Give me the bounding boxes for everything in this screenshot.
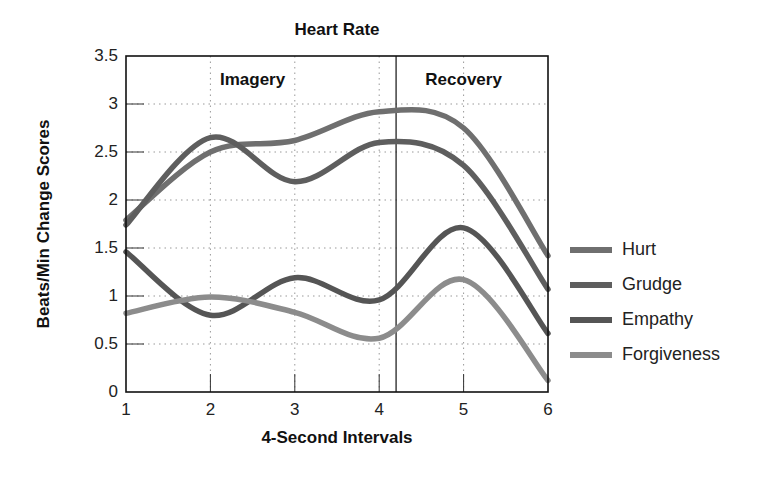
y-tick-label: 2.5 [94,142,118,162]
legend-swatch-empathy [570,317,612,323]
y-tick-label: 0 [109,382,118,402]
heart-rate-chart: Heart Rate Beats/Min Change Scores 4-Sec… [0,0,760,478]
legend-label-forgiveness: Forgiveness [622,344,720,365]
legend-label-empathy: Empathy [622,309,693,330]
series-line-empathy [126,228,548,334]
series-line-hurt [126,110,548,256]
x-tick-label: 5 [459,400,468,420]
y-tick-label: 2 [109,190,118,210]
legend-label-grudge: Grudge [622,274,682,295]
series-line-forgiveness [126,279,548,380]
legend-swatch-grudge [570,282,612,288]
legend: Hurt Grudge Empathy Forgiveness [570,232,720,372]
series-line-grudge [126,137,548,289]
legend-item-hurt: Hurt [570,232,720,267]
legend-swatch-forgiveness [570,352,612,358]
legend-item-grudge: Grudge [570,267,720,302]
y-tick-label: 1 [109,286,118,306]
legend-swatch-hurt [570,247,612,253]
x-tick-label: 4 [374,400,383,420]
y-tick-label: 1.5 [94,238,118,258]
y-tick-label: 3 [109,94,118,114]
x-tick-label: 1 [121,400,130,420]
y-tick-label: 0.5 [94,334,118,354]
legend-item-empathy: Empathy [570,302,720,337]
x-tick-label: 2 [206,400,215,420]
x-tick-label: 3 [290,400,299,420]
legend-label-hurt: Hurt [622,239,656,260]
plot-frame [126,56,548,392]
legend-item-forgiveness: Forgiveness [570,337,720,372]
y-tick-label: 3.5 [94,46,118,66]
phase-label-imagery: Imagery [220,70,285,90]
x-tick-label: 6 [543,400,552,420]
phase-label-recovery: Recovery [425,70,502,90]
